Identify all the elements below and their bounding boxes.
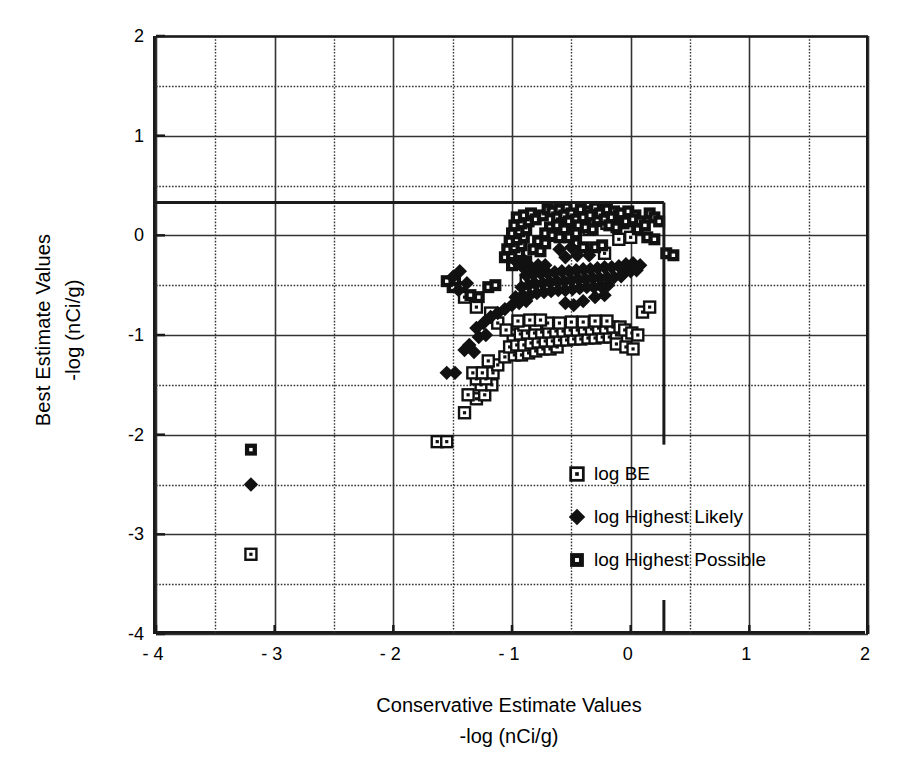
legend-item-log-highest-possible: log Highest Possible bbox=[560, 538, 850, 581]
x-tick-label: 0 bbox=[598, 645, 658, 663]
y-axis-title-line2: -log (nCi/g) bbox=[58, 234, 88, 427]
x-axis-title-line1: Conservative Estimate Values bbox=[153, 690, 865, 721]
legend-label-log-be: log BE bbox=[594, 464, 650, 483]
x-tick-label: - 3 bbox=[242, 645, 302, 663]
legend-marker-filled-diamond-icon bbox=[560, 507, 594, 527]
x-tick-label: - 2 bbox=[360, 645, 420, 663]
y-tick-label: 2 bbox=[104, 27, 144, 45]
y-axis-title: Best Estimate Values -log (nCi/g) bbox=[18, 140, 98, 520]
scatter-plot-figure: Best Estimate Values -log (nCi/g) -4-3-2… bbox=[0, 0, 897, 763]
y-tick-label: -3 bbox=[104, 525, 144, 543]
x-tick-label: - 1 bbox=[479, 645, 539, 663]
x-tick-label: 1 bbox=[716, 645, 776, 663]
y-tick-label: 1 bbox=[104, 127, 144, 145]
x-axis-title-line2: -log (nCi/g) bbox=[153, 721, 865, 752]
y-axis-title-line1: Best Estimate Values bbox=[28, 234, 58, 427]
y-tick-label: -2 bbox=[104, 426, 144, 444]
legend-marker-open-square-dot-icon bbox=[560, 464, 594, 484]
y-tick-label: 0 bbox=[104, 226, 144, 244]
chart-legend: log BE log Highest Likely log Highest Po… bbox=[560, 452, 850, 581]
y-tick-label: -4 bbox=[104, 625, 144, 643]
y-tick-label: -1 bbox=[104, 326, 144, 344]
x-tick-label: 2 bbox=[835, 645, 895, 663]
legend-item-log-be: log BE bbox=[560, 452, 850, 495]
x-axis-tick-labels: - 4- 3- 2- 1012 bbox=[0, 645, 897, 671]
x-tick-label: - 4 bbox=[123, 645, 183, 663]
legend-label-log-highest-likely: log Highest Likely bbox=[594, 507, 743, 526]
legend-label-log-highest-possible: log Highest Possible bbox=[594, 550, 766, 569]
legend-item-log-highest-likely: log Highest Likely bbox=[560, 495, 850, 538]
x-axis-title: Conservative Estimate Values -log (nCi/g… bbox=[153, 690, 865, 752]
legend-marker-filled-square-dot-icon bbox=[560, 550, 594, 570]
